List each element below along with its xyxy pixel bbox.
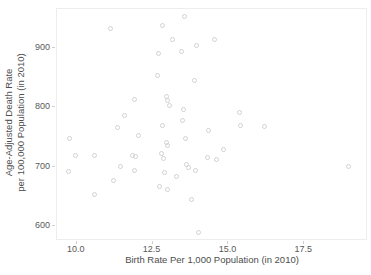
scatter-point xyxy=(92,153,97,158)
scatter-point xyxy=(165,143,170,148)
scatter-point xyxy=(155,73,160,78)
scatter-point xyxy=(133,154,138,159)
scatter-point xyxy=(189,197,194,202)
y-tick-mark xyxy=(52,166,55,167)
scatter-point xyxy=(122,113,127,118)
scatter-point xyxy=(186,165,191,170)
scatter-point xyxy=(161,156,166,161)
x-tick-mark xyxy=(303,241,304,244)
scatter-point xyxy=(205,155,210,160)
scatter-point xyxy=(111,178,116,183)
y-tick-mark xyxy=(52,47,55,48)
y-tick-mark xyxy=(52,106,55,107)
scatter-point xyxy=(132,97,137,102)
scatter-point xyxy=(262,124,267,129)
scatter-point xyxy=(193,168,198,173)
x-tick-label: 10.0 xyxy=(56,244,96,254)
scatter-point xyxy=(181,107,186,112)
scatter-point xyxy=(157,184,162,189)
scatter-point xyxy=(192,78,197,83)
scatter-point xyxy=(156,51,161,56)
scatter-point xyxy=(136,133,141,138)
scatter-point xyxy=(162,170,167,175)
y-axis-title-line-2: per 100,000 Population (in 2010) xyxy=(14,53,26,191)
scatter-point xyxy=(160,23,165,28)
scatter-point xyxy=(237,110,242,115)
scatter-point xyxy=(174,174,179,179)
y-tick-label: 900 xyxy=(20,42,50,52)
scatter-point xyxy=(92,192,97,197)
scatter-point xyxy=(183,136,188,141)
y-tick-mark xyxy=(52,225,55,226)
scatter-point xyxy=(73,153,78,158)
y-axis-title-line-1: Age-Adjusted Death Rate xyxy=(3,53,15,191)
scatter-point xyxy=(132,168,137,173)
x-tick-label: 15.0 xyxy=(207,244,247,254)
y-tick-label: 700 xyxy=(20,161,50,171)
scatter-point xyxy=(170,37,175,42)
scatter-point xyxy=(179,49,184,54)
x-tick-mark xyxy=(152,241,153,244)
scatter-point xyxy=(212,37,217,42)
x-tick-mark xyxy=(76,241,77,244)
y-axis-title: Age-Adjusted Death Rate per 100,000 Popu… xyxy=(0,0,28,245)
scatter-point xyxy=(180,118,185,123)
scatter-point xyxy=(160,123,165,128)
scatter-point xyxy=(67,136,72,141)
x-tick-mark xyxy=(227,241,228,244)
scatter-plot-figure: Age-Adjusted Death Rate per 100,000 Popu… xyxy=(0,0,371,275)
x-tick-label: 12.5 xyxy=(132,244,172,254)
x-axis-title: Birth Rate Per 1,000 Population (in 2010… xyxy=(56,254,368,265)
y-tick-label: 800 xyxy=(20,101,50,111)
y-tick-label: 600 xyxy=(20,220,50,230)
scatter-point xyxy=(108,26,113,31)
scatter-point xyxy=(115,125,120,130)
plot-panel xyxy=(56,8,367,240)
scatter-point xyxy=(118,164,123,169)
scatter-point xyxy=(182,14,187,19)
scatter-point xyxy=(214,157,219,162)
scatter-point xyxy=(346,164,351,169)
x-tick-label: 17.5 xyxy=(283,244,323,254)
scatter-point xyxy=(221,147,226,152)
scatter-point xyxy=(165,187,170,192)
scatter-point xyxy=(167,103,172,108)
scatter-point xyxy=(165,98,170,103)
scatter-point xyxy=(206,128,211,133)
scatter-point xyxy=(238,123,243,128)
scatter-point xyxy=(194,43,199,48)
scatter-point xyxy=(66,169,71,174)
scatter-point xyxy=(196,230,201,235)
